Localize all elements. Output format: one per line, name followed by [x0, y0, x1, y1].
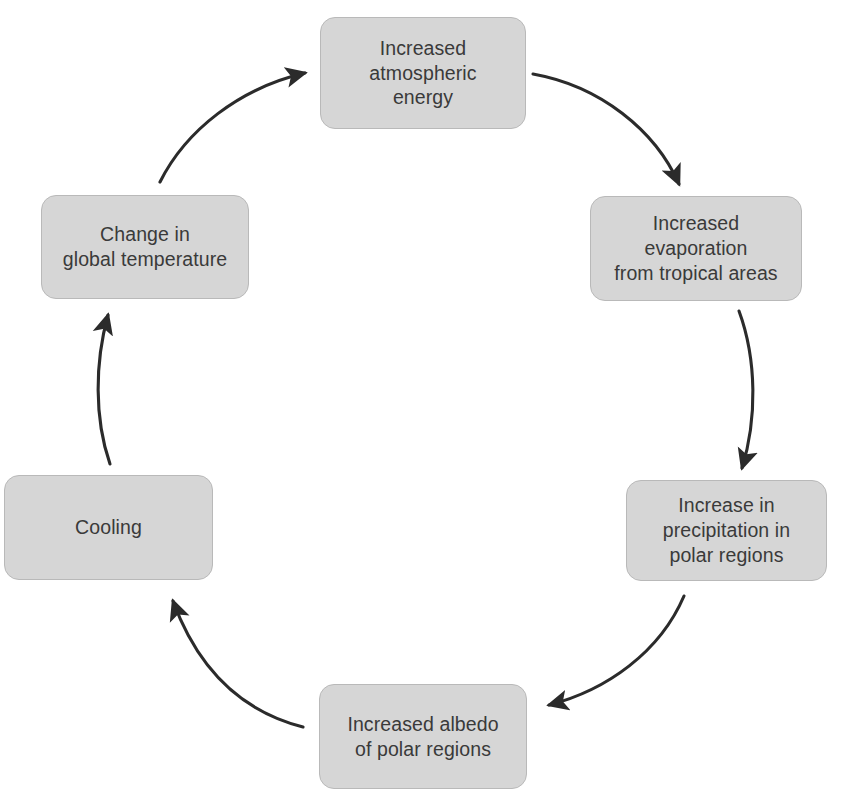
node-increased-atmospheric-energy: Increased atmospheric energy	[320, 17, 526, 129]
node-label: Change in global temperature	[55, 222, 235, 272]
node-cooling: Cooling	[4, 475, 213, 580]
edge-evaporation-to-precipitation	[739, 311, 753, 468]
node-label: Increased evaporation from tropical area…	[606, 211, 785, 286]
node-label: Cooling	[67, 515, 150, 540]
edge-temperature-to-energy	[160, 73, 305, 182]
edge-cooling-to-temperature	[98, 315, 110, 464]
node-increased-albedo: Increased albedo of polar regions	[319, 684, 527, 789]
edge-precipitation-to-albedo	[549, 596, 684, 705]
node-increase-in-precipitation: Increase in precipitation in polar regio…	[626, 480, 827, 581]
edge-albedo-to-cooling	[173, 601, 303, 727]
climate-feedback-cycle-diagram: Increased atmospheric energy Increased e…	[0, 0, 846, 798]
node-change-in-global-temperature: Change in global temperature	[41, 195, 249, 299]
node-increased-evaporation: Increased evaporation from tropical area…	[590, 196, 802, 301]
node-label: Increased albedo of polar regions	[339, 712, 506, 762]
edge-energy-to-evaporation	[533, 74, 679, 184]
node-label: Increased atmospheric energy	[361, 36, 484, 111]
node-label: Increase in precipitation in polar regio…	[655, 493, 798, 568]
